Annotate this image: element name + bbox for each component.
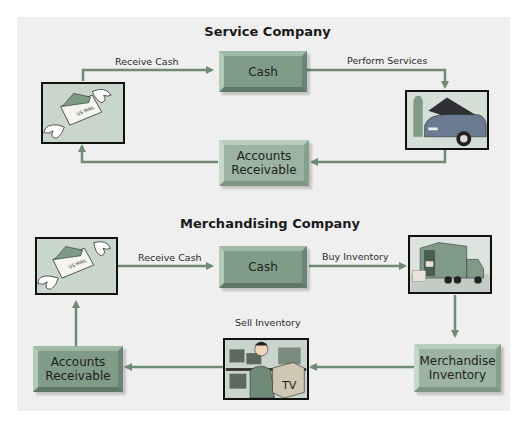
merch-merchandise-inventory-box: Merchandise Inventory bbox=[414, 344, 501, 392]
arrow-service-ar-to-mail bbox=[82, 146, 218, 162]
delivery-truck-icon bbox=[410, 237, 490, 292]
arrow-service-to-ar bbox=[312, 150, 445, 162]
merch-receive-cash-label: Receive Cash bbox=[138, 252, 202, 263]
us-mail-icon: US MAIL bbox=[37, 239, 116, 293]
salesman-tv-icon: TV bbox=[225, 340, 307, 398]
merch-accounts-receivable-box: Accounts Receivable bbox=[33, 346, 123, 392]
merch-mail-illustration: US MAIL bbox=[35, 237, 118, 295]
service-accounts-receivable-label: Accounts Receivable bbox=[231, 149, 296, 177]
service-cash-label: Cash bbox=[248, 65, 278, 79]
merch-cash-box: Cash bbox=[219, 246, 307, 288]
mechanic-car-icon bbox=[407, 92, 487, 148]
svg-text:TV: TV bbox=[281, 379, 297, 392]
us-mail-icon: US MAIL bbox=[43, 84, 123, 142]
service-receive-cash-label: Receive Cash bbox=[115, 56, 179, 67]
merch-buy-inventory-label: Buy Inventory bbox=[322, 251, 389, 262]
merch-accounts-receivable-label: Accounts Receivable bbox=[45, 355, 110, 383]
merchandising-company-title: Merchandising Company bbox=[180, 216, 360, 231]
service-perform-services-label: Perform Services bbox=[347, 55, 427, 66]
service-mail-illustration: US MAIL bbox=[41, 82, 125, 144]
service-company-title: Service Company bbox=[200, 24, 335, 39]
merch-sell-inventory-label: Sell Inventory bbox=[235, 317, 301, 328]
merch-salesman-illustration: TV bbox=[223, 338, 309, 400]
merch-merchandise-inventory-label: Merchandise Inventory bbox=[419, 354, 495, 382]
merch-truck-illustration bbox=[408, 235, 492, 294]
service-mechanic-illustration bbox=[405, 90, 489, 150]
service-accounts-receivable-box: Accounts Receivable bbox=[219, 140, 309, 186]
service-cash-box: Cash bbox=[219, 51, 307, 92]
arrow-service-receive-cash bbox=[83, 70, 212, 81]
merch-cash-label: Cash bbox=[248, 260, 278, 274]
arrow-service-perform-services bbox=[305, 70, 445, 87]
